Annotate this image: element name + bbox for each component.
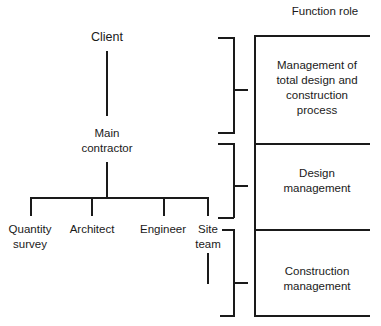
role2-line-1: Design	[258, 166, 376, 181]
drop-quantity-survey	[30, 197, 32, 216]
main-line-1: Main	[67, 126, 147, 141]
roles-divider-1	[254, 143, 370, 145]
drop-architect	[91, 197, 93, 216]
function-role-heading: Function role	[275, 4, 375, 19]
drop-engineer	[163, 197, 165, 216]
qs-line-2: survey	[2, 237, 58, 252]
bracket-1-top	[218, 37, 234, 39]
role1-line-4: process	[258, 103, 376, 118]
roles-divider-2	[254, 229, 370, 231]
role1-line-1: Management of	[258, 58, 376, 73]
bracket-1-tick	[233, 89, 248, 91]
bracket-3-bottom	[220, 315, 234, 317]
qs-line-1: Quantity	[2, 222, 58, 237]
roles-divider-bottom	[254, 315, 370, 317]
site-line-2: team	[189, 237, 227, 252]
roles-left-border	[254, 35, 256, 317]
node-client: Client	[77, 30, 137, 45]
roles-divider-top	[254, 35, 370, 37]
node-main-contractor: Main contractor	[67, 126, 147, 156]
node-engineer: Engineer	[136, 222, 190, 237]
role-construction-management: Construction management	[258, 264, 376, 294]
site-team-extension-line	[207, 253, 209, 284]
bracket-2-top	[218, 143, 234, 145]
bracket-1-bottom	[218, 132, 234, 134]
connector-main-down	[106, 162, 108, 198]
role-total-management: Management of total design and construct…	[258, 58, 376, 118]
main-line-2: contractor	[67, 141, 147, 156]
node-site-team: Site team	[189, 222, 227, 252]
role3-line-2: management	[258, 279, 376, 294]
node-architect: Architect	[62, 222, 122, 237]
children-bus-line	[30, 197, 209, 199]
role2-line-2: management	[258, 181, 376, 196]
role1-line-3: construction	[258, 88, 376, 103]
role3-line-1: Construction	[258, 264, 376, 279]
bracket-3-spine	[233, 229, 235, 317]
role1-line-2: total design and	[258, 73, 376, 88]
role-design-management: Design management	[258, 166, 376, 196]
bracket-2-spine	[233, 143, 235, 218]
node-quantity-survey: Quantity survey	[2, 222, 58, 252]
bracket-1-spine	[233, 37, 235, 134]
bracket-2-bottom	[218, 217, 234, 219]
connector-client-main	[106, 51, 108, 116]
drop-site-team	[207, 197, 209, 216]
bracket-2-tick	[233, 185, 248, 187]
bracket-3-tick	[233, 282, 248, 284]
